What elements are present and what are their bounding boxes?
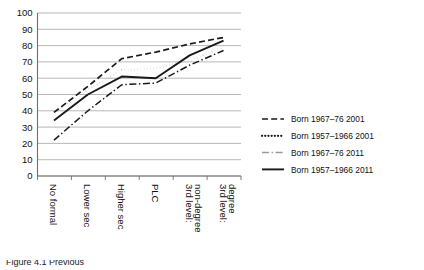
y-axis-tick-label: 60 bbox=[22, 73, 33, 84]
x-axis-category-label: degree bbox=[227, 184, 238, 214]
y-axis-tick-label: 70 bbox=[22, 56, 33, 67]
x-axis-category-label: Lower sec bbox=[82, 184, 93, 228]
x-axis-category-label: No formal bbox=[48, 184, 59, 225]
y-axis-tick-label: 10 bbox=[22, 154, 33, 165]
legend-label: Born 1967–76 2011 bbox=[291, 148, 364, 158]
y-axis-tick-label: 40 bbox=[22, 105, 33, 116]
x-axis-category-label: Higher sec bbox=[116, 184, 127, 230]
chart-legend: Born 1967–76 2001Born 1957–1966 2001Born… bbox=[262, 114, 374, 174]
data-series-lines bbox=[54, 37, 224, 140]
series-line bbox=[54, 47, 224, 112]
y-axis-tick-label: 30 bbox=[22, 122, 33, 133]
y-axis-tick-label: 20 bbox=[22, 138, 33, 149]
line-chart-figure: 0102030405060708090100 No formalLower se… bbox=[0, 0, 424, 270]
y-axis-tick-labels: 0102030405060708090100 bbox=[17, 7, 33, 181]
series-line bbox=[54, 50, 224, 140]
x-axis-category-labels: No formalLower secHigher secPLC3rd level… bbox=[48, 184, 238, 233]
y-axis-tick-label: 100 bbox=[17, 7, 33, 18]
y-axis-tick-label: 0 bbox=[27, 170, 32, 181]
x-axis-category-label: 3rd level: bbox=[184, 184, 195, 223]
y-axis-tick-label: 50 bbox=[22, 89, 33, 100]
legend-label: Born 1957–1966 2001 bbox=[291, 131, 374, 141]
figure-caption: Figure 4.1 Previous bbox=[0, 260, 424, 270]
x-axis-category-label: non-degree bbox=[193, 184, 204, 233]
x-axis-category-label: PLC bbox=[150, 184, 161, 203]
y-axis-tick-label: 90 bbox=[22, 24, 33, 35]
gridlines bbox=[38, 13, 242, 176]
y-axis-tick-label: 80 bbox=[22, 40, 33, 51]
figure-caption-text: Figure 4.1 Previous bbox=[6, 260, 84, 267]
axis-ticks bbox=[38, 176, 242, 180]
x-axis-category-label: 3rd level: bbox=[218, 184, 229, 223]
legend-label: Born 1967–76 2001 bbox=[291, 114, 365, 124]
series-line bbox=[54, 41, 224, 121]
legend-label: Born 1957–1966 2011 bbox=[291, 165, 374, 175]
